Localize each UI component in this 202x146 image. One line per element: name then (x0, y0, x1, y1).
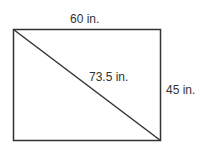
height-label: 45 in. (166, 84, 195, 96)
diagonal-label: 73.5 in. (89, 71, 128, 83)
width-label: 60 in. (70, 13, 99, 25)
diagonal-line (14, 30, 161, 141)
